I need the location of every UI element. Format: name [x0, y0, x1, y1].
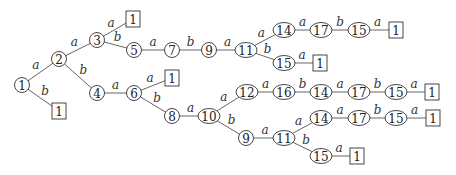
state-node: 9: [202, 43, 217, 58]
node-label: 17: [313, 24, 328, 38]
state-node: 15: [385, 111, 407, 126]
edge-label: a: [410, 77, 417, 91]
node-label: 11: [276, 132, 291, 146]
edge-label: a: [374, 15, 381, 29]
edge-label: a: [262, 77, 269, 91]
node-label: 1: [392, 24, 400, 38]
leaf-node: 1: [350, 148, 364, 164]
node-label: 1: [18, 79, 26, 93]
state-node: 15: [385, 85, 407, 100]
node-label: 15: [276, 57, 291, 71]
edge-label: b: [299, 77, 307, 91]
node-label: 3: [93, 34, 101, 48]
node-label: 15: [388, 86, 403, 100]
node-label: 9: [242, 132, 250, 146]
edge-label: b: [41, 84, 49, 98]
state-node: 17: [348, 111, 370, 126]
edge-label: a: [112, 78, 119, 92]
edge-label: b: [374, 103, 382, 117]
node-label: 17: [351, 86, 366, 100]
state-node: 3: [90, 33, 105, 48]
node-label: 14: [276, 24, 292, 38]
node-label: 1: [129, 13, 137, 27]
leaf-node: 1: [313, 55, 327, 71]
state-node: 4: [90, 86, 105, 101]
node-label: 17: [351, 112, 366, 126]
node-label: 8: [168, 110, 176, 124]
edge-label: a: [298, 48, 305, 62]
state-node: 15: [273, 56, 295, 71]
edge-label: a: [71, 35, 78, 49]
edge-label: b: [302, 133, 310, 147]
leaf-node: 1: [165, 70, 179, 86]
node-label: 15: [313, 150, 328, 164]
edge-label: a: [411, 103, 418, 117]
edge-label: b: [79, 63, 87, 77]
node-label: 14: [313, 86, 329, 100]
leaf-node: 1: [126, 11, 140, 27]
state-node: 10: [198, 109, 220, 124]
edge-label: b: [114, 30, 122, 44]
state-node: 16: [273, 85, 295, 100]
state-node: 7: [165, 43, 180, 58]
edge-label: a: [336, 103, 343, 117]
edge-label: a: [299, 15, 306, 29]
state-node: 5: [127, 43, 142, 58]
edge-label: a: [32, 58, 39, 72]
node-label: 1: [428, 86, 436, 100]
edge-label: a: [107, 16, 114, 30]
node-label: 16: [276, 86, 291, 100]
state-node: 17: [310, 23, 332, 38]
state-node: 14: [310, 111, 332, 126]
state-node: 9: [239, 131, 254, 146]
node-label: 1: [55, 105, 63, 119]
edge-label: a: [261, 123, 268, 137]
edge-label: a: [149, 35, 156, 49]
state-node: 11: [273, 131, 295, 146]
leaf-node: 1: [425, 84, 439, 100]
node-label: 1: [429, 112, 437, 126]
edge-label: a: [336, 77, 343, 91]
state-node: 11: [235, 43, 257, 58]
state-node: 14: [273, 23, 295, 38]
state-node: 8: [165, 109, 180, 124]
edge-label: b: [336, 15, 344, 29]
node-label: 12: [239, 86, 254, 100]
edge-label: b: [374, 77, 382, 91]
edge-label: a: [224, 35, 231, 49]
edge-label: a: [295, 114, 302, 128]
state-node: 6: [127, 86, 142, 101]
edge-label: b: [228, 113, 236, 127]
leaf-node: 1: [52, 103, 66, 119]
node-label: 1: [168, 72, 176, 86]
leaf-node: 1: [389, 22, 403, 38]
node-label: 2: [55, 53, 63, 67]
state-node: 15: [348, 23, 370, 38]
node-label: 1: [353, 150, 361, 164]
node-label: 4: [93, 87, 101, 101]
edge-label: a: [335, 141, 342, 155]
edge-label: b: [187, 35, 195, 49]
node-label: 1: [316, 57, 324, 71]
state-node: 2: [52, 52, 67, 67]
node-label: 9: [205, 44, 213, 58]
edge-label: b: [264, 42, 272, 56]
node-label: 7: [168, 44, 176, 58]
node-label: 15: [351, 24, 366, 38]
node-label: 5: [130, 44, 138, 58]
edge-label: a: [146, 71, 153, 85]
edge-label: a: [220, 90, 227, 104]
edge-label: a: [258, 26, 265, 40]
node-label: 14: [313, 112, 329, 126]
state-node: 1: [15, 78, 30, 93]
tree-diagram: ababababaaababaaabaaabababaaababa 121341…: [0, 0, 456, 175]
node-label: 10: [201, 110, 216, 124]
state-node: 15: [310, 149, 332, 164]
node-label: 15: [388, 112, 403, 126]
edge-label: a: [187, 101, 194, 115]
state-node: 14: [310, 85, 332, 100]
state-node: 17: [348, 85, 370, 100]
node-label: 6: [130, 87, 138, 101]
leaf-node: 1: [426, 110, 440, 126]
edge-label: b: [153, 91, 161, 105]
